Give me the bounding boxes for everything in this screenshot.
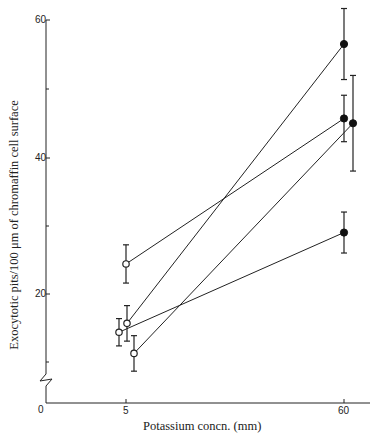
data-series (116, 9, 357, 372)
series-line (127, 44, 344, 323)
filled-circle-marker (340, 115, 347, 122)
series-line (119, 233, 344, 333)
open-circle-marker (116, 329, 122, 335)
open-circle-marker (124, 320, 130, 326)
open-circle-marker (123, 261, 129, 267)
chart-plot-area (0, 0, 379, 439)
series-line (126, 118, 344, 263)
open-circle-marker (131, 350, 137, 356)
filled-circle-marker (340, 40, 347, 47)
filled-circle-marker (340, 229, 347, 236)
y-axis-break-icon (40, 374, 52, 386)
filled-circle-marker (349, 120, 356, 127)
series-line (134, 123, 353, 353)
